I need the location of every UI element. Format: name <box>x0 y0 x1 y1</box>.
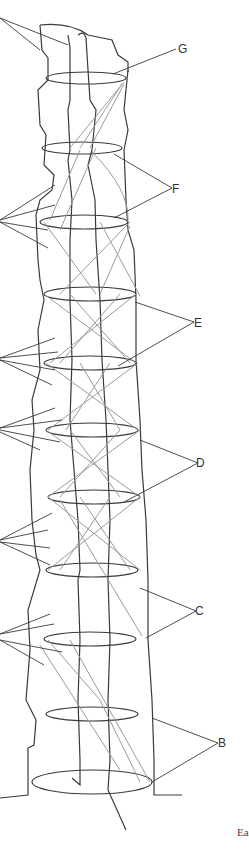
ring-D1 <box>48 490 140 504</box>
label-D: D <box>196 457 205 469</box>
brace-wire <box>46 430 140 497</box>
ring-B1 <box>46 707 138 721</box>
ring-E1 <box>44 287 136 301</box>
right-frame-wire <box>124 70 182 795</box>
figure-caption: Ea <box>237 827 249 838</box>
wire-frame-drawing <box>0 0 249 851</box>
brace-wire <box>48 497 140 570</box>
ring-F1 <box>42 142 122 154</box>
leader-E <box>118 302 194 366</box>
label-C: C <box>195 605 204 617</box>
ring-B2 <box>32 770 152 794</box>
brace-wire <box>48 500 142 782</box>
leader-G <box>113 49 176 74</box>
ring-E2 <box>44 356 136 370</box>
leader-left-3 <box>0 408 62 450</box>
label-B: B <box>218 737 226 749</box>
leader-left-4 <box>0 513 52 565</box>
leader-left-5 <box>0 614 62 665</box>
brace-wire <box>44 222 140 296</box>
leader-F <box>114 154 172 218</box>
leader-left-2 <box>0 338 58 385</box>
label-E: E <box>194 317 202 329</box>
brace-wire <box>44 294 136 363</box>
leader-B <box>152 718 218 782</box>
brace-wire <box>70 82 124 148</box>
leader-top-left <box>0 18 68 50</box>
leader-D <box>124 440 198 502</box>
label-G: G <box>178 43 187 55</box>
ring-D2 <box>46 423 138 437</box>
ring-C2 <box>44 632 136 646</box>
label-F: F <box>172 183 179 195</box>
top-contour <box>40 24 128 72</box>
ring-C1 <box>46 563 138 577</box>
